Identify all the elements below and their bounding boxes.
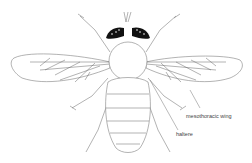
left-eye: [106, 27, 124, 38]
right-middle-leg: [148, 78, 186, 110]
right-wing: [146, 56, 242, 82]
left-hind-leg: [86, 102, 108, 152]
thorax: [109, 42, 147, 80]
label-mesothoracic-wing: mesothoracic wing: [186, 113, 232, 119]
label-haltere: haltere: [176, 131, 193, 137]
haltere-leader: [150, 80, 178, 130]
fly-illustration: [0, 0, 252, 163]
left-middle-leg: [70, 78, 108, 110]
abdomen: [106, 78, 151, 153]
right-front-leg: [146, 14, 180, 52]
antennae: [124, 12, 131, 22]
left-front-leg: [78, 14, 110, 52]
right-eye: [132, 27, 150, 38]
wing-leader: [190, 90, 200, 108]
